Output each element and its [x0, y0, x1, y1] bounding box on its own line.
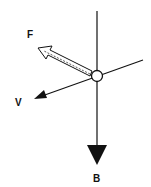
- label-F: F: [27, 29, 33, 40]
- object-circle: [92, 71, 103, 82]
- velocity-arrowhead-icon: [34, 90, 47, 99]
- label-V: V: [15, 97, 22, 108]
- force-F-arrow: [38, 46, 92, 76]
- force-diagram: F V B: [0, 0, 151, 187]
- label-B: B: [93, 173, 100, 184]
- buoyancy-arrowhead-icon: [87, 145, 107, 165]
